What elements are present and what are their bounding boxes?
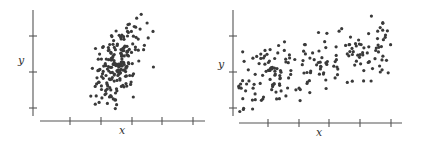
data-point <box>121 49 124 52</box>
data-point <box>350 47 353 50</box>
data-point <box>323 40 326 43</box>
data-point <box>104 92 107 95</box>
data-point <box>377 44 380 47</box>
data-point <box>100 88 103 91</box>
data-point <box>112 39 115 42</box>
data-point <box>108 43 111 46</box>
data-point <box>353 64 356 67</box>
data-point <box>377 50 380 53</box>
data-point <box>251 57 254 60</box>
data-point <box>338 30 341 33</box>
data-point <box>146 21 149 24</box>
data-point <box>251 107 254 110</box>
data-point <box>280 89 283 92</box>
data-point <box>382 38 385 41</box>
data-point <box>270 67 273 70</box>
data-point <box>309 71 312 74</box>
data-point <box>114 98 117 101</box>
data-point <box>97 58 100 61</box>
data-point <box>113 53 116 56</box>
data-point <box>151 30 154 33</box>
x-axis-label: x <box>119 124 126 137</box>
data-point <box>325 87 328 90</box>
data-point <box>320 56 323 59</box>
data-point <box>279 69 282 72</box>
data-point <box>100 96 103 99</box>
data-point <box>126 34 129 37</box>
data-point <box>324 78 327 81</box>
data-point <box>137 49 140 52</box>
data-point <box>305 71 308 74</box>
data-point <box>242 108 245 111</box>
scatter-chart-left: xy <box>17 10 205 137</box>
data-point <box>101 46 104 49</box>
data-point <box>294 88 297 91</box>
data-point <box>114 64 117 67</box>
data-point <box>356 54 359 57</box>
data-point <box>100 84 103 87</box>
data-point <box>98 101 101 104</box>
data-point <box>120 34 123 37</box>
data-point <box>127 62 130 65</box>
data-point <box>283 40 286 43</box>
data-point <box>288 53 291 56</box>
data-point <box>360 43 363 46</box>
data-point <box>95 76 98 79</box>
data-point <box>130 81 133 84</box>
data-point <box>101 72 104 75</box>
data-point <box>352 50 355 53</box>
data-point <box>273 82 276 85</box>
data-point <box>354 42 357 45</box>
data-point <box>283 49 286 52</box>
data-point <box>324 61 327 64</box>
data-point <box>142 48 145 51</box>
data-point <box>274 91 277 94</box>
data-point <box>378 64 381 67</box>
data-point <box>259 82 262 85</box>
data-point <box>89 95 92 98</box>
data-point <box>359 62 362 65</box>
data-point <box>367 32 370 35</box>
data-point <box>325 32 328 35</box>
data-point <box>109 71 112 74</box>
data-point <box>301 59 304 62</box>
data-point <box>131 74 134 77</box>
data-point <box>362 46 365 49</box>
data-point <box>361 51 364 54</box>
data-point <box>113 74 116 77</box>
data-point <box>132 95 135 98</box>
data-point <box>284 60 287 63</box>
data-point <box>128 74 131 77</box>
data-point <box>261 97 264 100</box>
data-point <box>270 88 273 91</box>
data-point <box>135 17 138 20</box>
data-point <box>317 31 320 34</box>
data-point <box>124 70 127 73</box>
data-point <box>94 47 97 50</box>
data-point <box>380 45 383 48</box>
data-point <box>375 47 378 50</box>
data-point <box>349 36 352 39</box>
data-point <box>152 65 155 68</box>
data-point <box>107 46 110 49</box>
data-point <box>247 79 250 82</box>
data-point <box>381 21 384 24</box>
data-point <box>243 60 246 63</box>
data-point <box>97 81 100 84</box>
data-point <box>253 83 256 86</box>
data-point <box>119 52 122 55</box>
data-point <box>269 78 272 81</box>
data-point <box>355 60 358 63</box>
data-point <box>130 30 133 33</box>
data-point <box>263 63 266 66</box>
data-point <box>111 43 114 46</box>
data-point <box>386 29 389 32</box>
data-point <box>384 34 387 37</box>
data-point <box>109 88 112 91</box>
data-point <box>362 79 365 82</box>
data-point <box>114 107 117 110</box>
data-point <box>370 15 373 18</box>
data-point <box>247 68 250 71</box>
data-point <box>286 86 289 89</box>
data-point <box>94 103 97 106</box>
